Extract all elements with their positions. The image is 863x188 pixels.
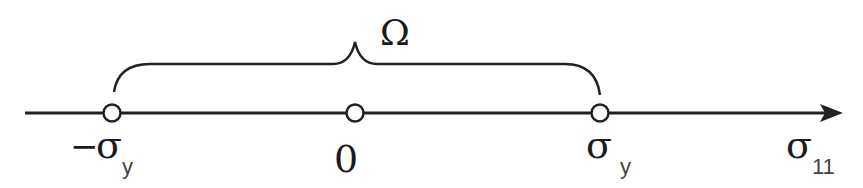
point-zero — [347, 105, 364, 122]
axis-label-subscript: 11 — [812, 154, 835, 179]
region-label-omega: Ω — [380, 12, 410, 53]
label-zero: 0 — [334, 137, 358, 181]
axis-label-sigma: σ — [786, 123, 812, 167]
label-neg-subscript: y — [122, 154, 133, 179]
point-neg-sigma-y — [104, 105, 121, 122]
label-pos-subscript: y — [620, 154, 631, 179]
label-neg-prefix: − — [70, 126, 99, 166]
number-line-diagram: Ω − σ y 0 σ y σ 11 — [0, 0, 863, 188]
point-pos-sigma-y — [592, 105, 609, 122]
label-pos-sigma: σ — [586, 123, 612, 167]
label-neg-sigma: σ — [96, 123, 122, 167]
omega-brace — [114, 42, 600, 95]
